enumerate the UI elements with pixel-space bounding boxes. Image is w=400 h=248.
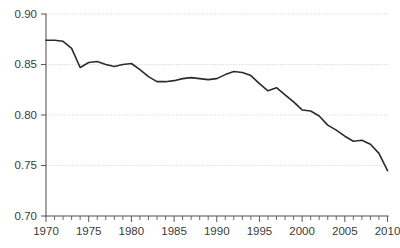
x-axis-tick-label: 1980 bbox=[119, 225, 145, 237]
x-axis-tick-label: 1975 bbox=[76, 225, 102, 237]
y-axis-tick-label: 0.80 bbox=[15, 109, 37, 121]
y-axis-tick-label: 0.90 bbox=[15, 8, 37, 20]
x-axis-tick-label: 1995 bbox=[247, 225, 273, 237]
y-axis-tick-label: 0.70 bbox=[15, 210, 37, 222]
x-axis-tick-label: 1990 bbox=[204, 225, 230, 237]
y-axis-ticks-group: 0.700.750.800.850.90 bbox=[15, 8, 46, 222]
line-chart-figure: 0.700.750.800.850.90 1970197519801985199… bbox=[0, 0, 400, 248]
chart-canvas: 0.700.750.800.850.90 1970197519801985199… bbox=[0, 0, 400, 248]
y-axis-tick-label: 0.85 bbox=[15, 58, 37, 70]
y-axis-tick-label: 0.75 bbox=[15, 159, 37, 171]
x-axis-tick-label: 2010 bbox=[375, 225, 400, 237]
data-line-series-1 bbox=[46, 40, 388, 170]
x-axis-ticks-group bbox=[46, 216, 388, 222]
x-axis-tick-label: 2005 bbox=[332, 225, 358, 237]
gridlines-group bbox=[46, 14, 389, 216]
x-axis-labels-group: 197019751980198519901995200020052010 bbox=[33, 225, 400, 237]
x-axis-tick-label: 1985 bbox=[161, 225, 187, 237]
data-series-group bbox=[46, 40, 388, 170]
x-axis-tick-label: 2000 bbox=[289, 225, 315, 237]
x-axis-tick-label: 1970 bbox=[33, 225, 59, 237]
